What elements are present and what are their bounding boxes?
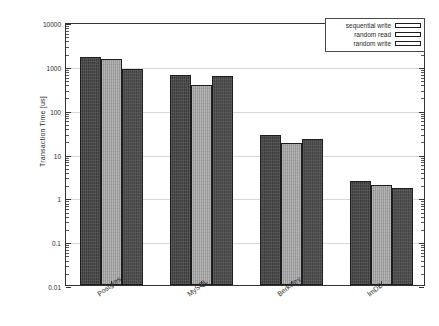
bar <box>302 139 323 286</box>
bar <box>392 188 413 285</box>
y-tick-mark <box>66 287 71 288</box>
legend-label: sequential write <box>346 22 391 29</box>
legend-item: random read <box>329 30 421 39</box>
y-tick-label: 1 <box>57 196 61 203</box>
y-tick-label: 10000 <box>43 21 61 28</box>
y-tick-label: 0.01 <box>48 284 61 291</box>
y-tick-label: 10 <box>54 152 61 159</box>
chart-legend: sequential write random read random writ… <box>325 18 425 52</box>
bar <box>260 135 281 285</box>
bar <box>101 59 122 285</box>
bar <box>191 85 212 285</box>
legend-label: random write <box>353 40 391 47</box>
legend-swatch-sequential-write <box>395 23 421 28</box>
legend-swatch-random-read <box>395 32 421 37</box>
bar <box>170 75 191 285</box>
y-tick-mark <box>419 287 424 288</box>
legend-item: sequential write <box>329 21 421 30</box>
y-tick-label: 1000 <box>47 64 61 71</box>
legend-swatch-random-write <box>395 41 421 46</box>
y-tick-label: 100 <box>50 108 61 115</box>
y-tick-label: 0.1 <box>52 240 61 247</box>
bar <box>281 143 302 285</box>
bars-group <box>66 24 424 285</box>
bar <box>212 76 233 285</box>
y-axis-title: Transaction Time [us] <box>39 52 46 212</box>
plot-area: 1000010001001010.10.01 <box>65 23 425 286</box>
legend-item: random write <box>329 39 421 48</box>
bar <box>371 185 392 285</box>
chart-figure: Transaction Time [us] 1000010001001010.1… <box>0 0 439 326</box>
bar <box>80 57 101 285</box>
bar <box>122 69 143 285</box>
bar <box>350 181 371 285</box>
legend-label: random read <box>354 31 391 38</box>
